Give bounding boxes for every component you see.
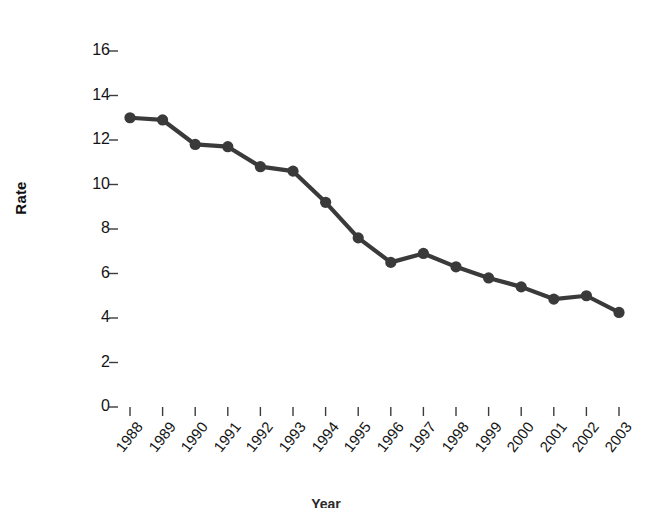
x-axis-title: Year <box>0 496 652 508</box>
data-point <box>287 166 298 177</box>
y-tick-label: 14 <box>66 87 110 103</box>
y-tick-label: 8 <box>66 220 110 236</box>
y-tick-label: 16 <box>66 42 110 58</box>
data-point <box>255 161 266 172</box>
data-point <box>124 112 135 123</box>
axis-tick-marks <box>109 51 619 416</box>
data-point <box>450 261 461 272</box>
y-tick-label: 4 <box>66 309 110 325</box>
data-point <box>613 307 624 318</box>
data-point <box>418 248 429 259</box>
data-point <box>353 232 364 243</box>
y-tick-label: 2 <box>66 354 110 370</box>
y-tick-label: 10 <box>66 176 110 192</box>
y-tick-label: 6 <box>66 265 110 281</box>
data-point-markers <box>124 112 624 318</box>
data-point <box>483 272 494 283</box>
data-point <box>157 114 168 125</box>
y-tick-label: 0 <box>66 398 110 414</box>
data-line <box>130 118 619 313</box>
data-point <box>548 293 559 304</box>
data-point <box>385 257 396 268</box>
data-point <box>190 139 201 150</box>
data-point <box>320 197 331 208</box>
data-point <box>581 290 592 301</box>
y-tick-label: 12 <box>66 131 110 147</box>
data-point <box>516 281 527 292</box>
chart-figure: Rate 0246810121416 198819891990199119921… <box>0 0 652 508</box>
data-point <box>222 141 233 152</box>
